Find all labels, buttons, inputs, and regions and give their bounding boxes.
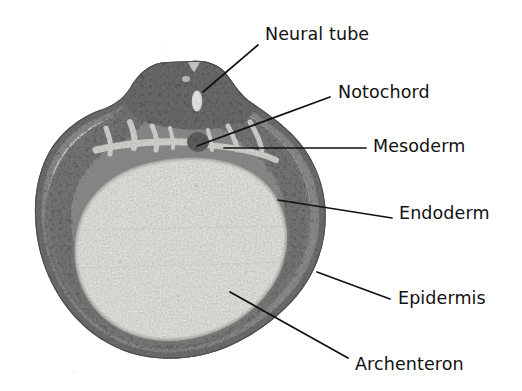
embryo-cross-section-image: [0, 0, 522, 391]
label-mesoderm: Mesoderm: [373, 138, 465, 156]
figure-page: Neural tube Notochord Mesoderm Endoderm …: [0, 0, 522, 391]
label-epidermis: Epidermis: [398, 290, 486, 308]
label-notochord: Notochord: [338, 84, 430, 102]
label-neural-tube: Neural tube: [265, 26, 369, 44]
label-endoderm: Endoderm: [399, 205, 490, 223]
micrograph-figure: [0, 0, 522, 391]
label-archenteron: Archenteron: [355, 356, 464, 374]
